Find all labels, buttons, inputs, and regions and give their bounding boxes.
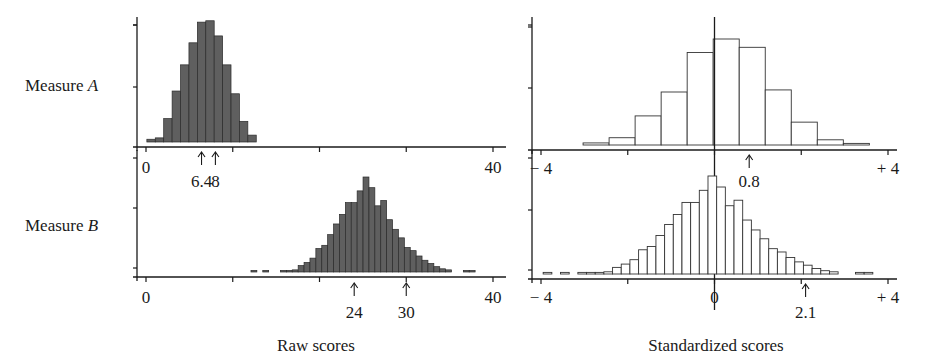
histogram-bar bbox=[398, 238, 404, 272]
histogram-bar bbox=[463, 270, 469, 272]
histogram-bar bbox=[298, 266, 304, 272]
histogram-bar bbox=[263, 270, 269, 272]
histogram-figure: Measure A Measure B 0406.48 − 4+ 40.8 04… bbox=[0, 0, 934, 355]
figure-canvas: Measure A Measure B 0406.48 − 4+ 40.8 04… bbox=[0, 0, 934, 355]
x-tick-label: 0 bbox=[710, 288, 719, 307]
x-tick-label: 40 bbox=[485, 158, 502, 177]
histogram-bar bbox=[635, 116, 661, 145]
x-tick-label: + 4 bbox=[877, 159, 900, 178]
histogram-bar bbox=[469, 270, 475, 272]
histogram-bar bbox=[795, 262, 804, 274]
x-tick-label: 40 bbox=[485, 288, 502, 307]
histogram-bar bbox=[595, 272, 604, 274]
histogram-bar bbox=[387, 220, 393, 272]
histogram-bar bbox=[231, 94, 239, 142]
value-annotation: 24 bbox=[346, 283, 364, 322]
annotation-label: 6.4 bbox=[191, 172, 213, 191]
x-tick-label: − 4 bbox=[530, 159, 553, 178]
histogram-bar bbox=[613, 267, 622, 274]
histogram-bar bbox=[604, 272, 613, 274]
histogram-bar bbox=[609, 138, 635, 145]
histogram-bar bbox=[561, 272, 570, 274]
histogram-bar bbox=[339, 214, 345, 272]
histogram-bar bbox=[647, 246, 656, 274]
histogram-bar bbox=[708, 176, 717, 274]
annotation-label: 24 bbox=[346, 303, 364, 322]
histogram-bar bbox=[661, 92, 687, 145]
histogram-bar bbox=[717, 187, 726, 274]
histogram-bars bbox=[583, 39, 869, 145]
annotation-label: 0.8 bbox=[739, 172, 760, 191]
row-label-measure-a: Measure A bbox=[25, 76, 99, 95]
histogram-bar bbox=[357, 191, 363, 272]
histogram-bar bbox=[381, 200, 387, 272]
histogram-bar bbox=[155, 138, 163, 142]
x-tick-label: 0 bbox=[142, 288, 151, 307]
histogram-bar bbox=[786, 257, 795, 274]
histogram-bar bbox=[416, 256, 422, 272]
histogram-bar bbox=[578, 272, 587, 274]
histogram-bar bbox=[446, 270, 452, 272]
value-annotation: 2.1 bbox=[795, 284, 816, 322]
histogram-bar bbox=[687, 53, 713, 145]
histogram-bar bbox=[656, 235, 665, 274]
histogram-bar bbox=[739, 47, 765, 145]
x-tick-label: − 4 bbox=[530, 288, 553, 307]
histogram-bar bbox=[239, 121, 247, 142]
histogram-bar bbox=[369, 188, 375, 272]
histogram-bar bbox=[791, 122, 817, 145]
histogram-bar bbox=[248, 135, 256, 142]
panel-measure-b-standardized: − 40+ 42.1 bbox=[528, 150, 900, 322]
histogram-bar bbox=[422, 260, 428, 272]
histogram-bar bbox=[351, 203, 357, 272]
histogram-bar bbox=[304, 262, 310, 272]
histogram-bar bbox=[334, 224, 340, 272]
histogram-bar bbox=[829, 272, 838, 274]
value-annotation: 8 bbox=[211, 152, 220, 191]
histogram-bar bbox=[803, 265, 812, 274]
annotation-label: 30 bbox=[398, 303, 415, 322]
histogram-bar bbox=[164, 119, 172, 142]
histogram-bar bbox=[630, 260, 639, 274]
x-axis-title-raw: Raw scores bbox=[277, 336, 355, 355]
histogram-bar bbox=[699, 190, 708, 274]
histogram-bar bbox=[543, 272, 552, 274]
histogram-bar bbox=[812, 268, 821, 274]
value-annotation: 6.4 bbox=[191, 152, 213, 191]
panel-measure-a-raw: 0406.48 bbox=[133, 17, 506, 191]
histogram-bar bbox=[322, 245, 328, 272]
histogram-bar bbox=[206, 21, 214, 142]
value-annotation: 30 bbox=[398, 283, 415, 322]
row-label-measure-b: Measure B bbox=[25, 216, 99, 235]
histogram-bar bbox=[328, 235, 334, 272]
histogram-bar bbox=[843, 143, 869, 145]
panel-measure-b-raw: 0402430 bbox=[133, 150, 506, 322]
histogram-bar bbox=[310, 258, 316, 272]
histogram-bar bbox=[375, 206, 381, 272]
annotation-label: 8 bbox=[211, 172, 220, 191]
histogram-bar bbox=[665, 224, 674, 274]
histogram-bar bbox=[363, 177, 369, 272]
histogram-bars bbox=[251, 177, 475, 272]
histogram-bar bbox=[817, 140, 843, 145]
histogram-bar bbox=[583, 143, 609, 145]
histogram-bar bbox=[864, 272, 873, 274]
histogram-bar bbox=[751, 230, 760, 274]
histogram-bar bbox=[769, 249, 778, 274]
histogram-bar bbox=[713, 39, 739, 145]
histogram-bar bbox=[725, 206, 734, 274]
histogram-bar bbox=[223, 65, 231, 142]
histogram-bar bbox=[434, 267, 440, 272]
histogram-bar bbox=[189, 43, 197, 142]
histogram-bar bbox=[821, 271, 830, 274]
histogram-bar bbox=[428, 263, 434, 272]
value-annotation: 0.8 bbox=[739, 155, 760, 191]
histogram-bar bbox=[181, 65, 189, 142]
histogram-bar bbox=[172, 91, 180, 142]
histogram-bar bbox=[743, 220, 752, 274]
annotation-label: 2.1 bbox=[795, 303, 816, 322]
histogram-bar bbox=[765, 90, 791, 145]
histogram-bar bbox=[760, 239, 769, 274]
histogram-bar bbox=[410, 251, 416, 272]
histogram-bar bbox=[587, 272, 596, 274]
